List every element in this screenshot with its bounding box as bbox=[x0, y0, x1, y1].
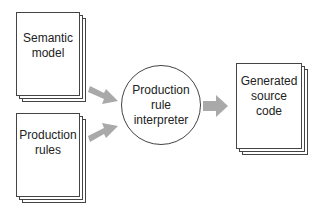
page-front: Generated source code bbox=[236, 63, 302, 149]
output-label-3: code bbox=[237, 104, 301, 119]
generated-code-stack: Generated source code bbox=[236, 63, 310, 157]
output-label-1: Generated bbox=[237, 74, 301, 89]
page-front: Semantic model bbox=[16, 12, 80, 96]
arrow-semantic-to-interpreter bbox=[88, 86, 118, 104]
arrow-rules-to-interpreter bbox=[88, 123, 118, 142]
semantic-model-stack: Semantic model bbox=[16, 12, 88, 104]
arrow-interpreter-to-output bbox=[203, 95, 228, 117]
production-rules-label-2: rules bbox=[17, 143, 79, 158]
interpreter-label-2: rule bbox=[122, 98, 200, 113]
interpreter-label-1: Production bbox=[122, 83, 200, 98]
semantic-model-label-2: model bbox=[17, 46, 79, 61]
output-label-2: source bbox=[237, 89, 301, 104]
production-rules-stack: Production rules bbox=[16, 113, 88, 205]
semantic-model-label-1: Semantic bbox=[17, 31, 79, 46]
page-front: Production rules bbox=[16, 113, 80, 197]
production-rules-label-1: Production bbox=[17, 128, 79, 143]
interpreter-label-3: interpreter bbox=[122, 113, 200, 128]
interpreter-circle: Production rule interpreter bbox=[121, 65, 201, 145]
